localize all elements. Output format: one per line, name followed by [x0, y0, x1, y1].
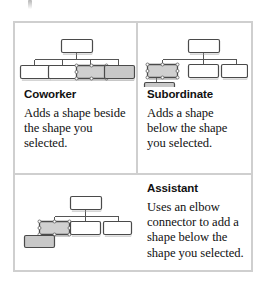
shape-child-2: [49, 66, 80, 81]
shape-child-3: [104, 222, 133, 237]
panel-assistant-art: [15, 175, 138, 270]
shape-child-3-selected: [75, 64, 108, 81]
panel-description-coworker: Adds a shape beside the shape you select…: [24, 106, 131, 152]
subordinate-org-chart-diagram: [140, 35, 248, 87]
shape-child-1-selected: [146, 63, 179, 80]
panel-description-assistant: Uses an elbow connector to add a shape b…: [147, 200, 247, 261]
shape-top: [71, 197, 103, 212]
table-row: Coworker Adds a shape beside the shape y…: [15, 23, 251, 173]
shape-new-subordinate: [145, 83, 175, 88]
panel-heading-coworker: Coworker: [24, 88, 131, 101]
panel-text-coworker: Coworker Adds a shape beside the shape y…: [24, 88, 131, 152]
shape-child-1-selected: [38, 220, 71, 237]
panel-text-assistant: Assistant Uses an elbow connector to add…: [147, 182, 247, 261]
panel-heading-assistant: Assistant: [147, 182, 247, 195]
panel-description-subordinate: Adds a shape below the shape you selecte…: [147, 106, 246, 152]
shape-child-1: [21, 66, 52, 81]
table-row: Assistant Uses an elbow connector to add…: [15, 173, 251, 270]
shape-top: [189, 40, 221, 55]
shape-top: [62, 40, 94, 55]
panel-assistant-text: Assistant Uses an elbow connector to add…: [138, 175, 251, 270]
shape-child-3: [222, 65, 249, 80]
shape-child-2: [71, 222, 102, 237]
shape-new-assistant: [25, 236, 55, 248]
shape-child-2: [189, 65, 220, 80]
panel-subordinate: Subordinate Adds a shape below the shape…: [138, 23, 251, 173]
panel-heading-subordinate: Subordinate: [147, 88, 246, 101]
scan-speck-artifact: [28, 0, 32, 9]
panel-coworker: Coworker Adds a shape beside the shape y…: [15, 23, 138, 173]
assistant-org-chart-diagram: [23, 192, 135, 254]
shape-type-comparison-table: Coworker Adds a shape beside the shape y…: [13, 21, 253, 272]
panel-text-subordinate: Subordinate Adds a shape below the shape…: [147, 88, 246, 152]
coworker-org-chart-diagram: [17, 36, 136, 84]
shape-child-4-new: [105, 66, 136, 81]
